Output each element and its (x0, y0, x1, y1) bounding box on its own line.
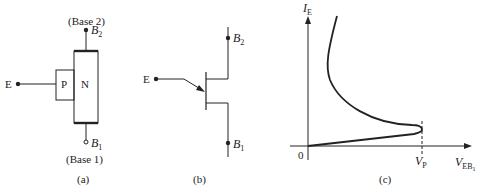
b2-label: B2 (233, 31, 244, 47)
peak-voltage-label: VP (415, 154, 427, 170)
x-axis-arrow-icon (464, 143, 472, 149)
emitter-label: E (5, 78, 12, 90)
b1-terminal-dot (226, 141, 230, 145)
origin-label: 0 (298, 149, 304, 161)
base2-label: (Base 2) (68, 15, 105, 28)
panel-a-structure: (Base 2) B2 N P E B1 (Base 1) (a) (5, 15, 105, 186)
ujt-figure: (Base 2) B2 N P E B1 (Base 1) (a) B2 B1 … (0, 0, 491, 194)
caption-c: (c) (379, 173, 392, 186)
b1-terminal-circle (84, 140, 88, 144)
y-axis-arrow-icon (305, 16, 311, 24)
b1-label: B1 (233, 137, 244, 153)
caption-a: (a) (77, 173, 90, 186)
emitter-arrow-icon (196, 85, 205, 92)
n-region-label: N (81, 78, 89, 90)
emitter-label: E (143, 73, 150, 85)
b1-label: B1 (91, 136, 102, 152)
b2-terminal-dot (226, 36, 230, 40)
emitter-lead (156, 79, 202, 90)
p-region-label: P (61, 78, 67, 90)
caption-b: (b) (193, 173, 206, 186)
panel-c-characteristic: IE VEB1 0 VP (c) (290, 1, 476, 186)
x-axis-label: VEB1 (455, 155, 476, 172)
ie-veb1-curve (308, 16, 422, 146)
y-axis-label: IE (302, 1, 312, 17)
panel-b-symbol: B2 B1 E (b) (143, 27, 244, 186)
base1-label: (Base 1) (66, 153, 103, 166)
